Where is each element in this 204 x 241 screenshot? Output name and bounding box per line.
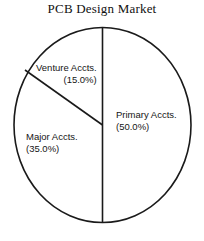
slice-label-primary-name: Primary Accts. bbox=[116, 109, 177, 121]
slice-label-venture-percent: (15.0%) bbox=[36, 74, 97, 86]
slice-label-venture-accts: Venture Accts. (15.0%) bbox=[36, 62, 97, 85]
pie-chart-figure: PCB Design Market Venture Accts. (15.0%)… bbox=[0, 0, 204, 241]
slice-label-primary-accts: Primary Accts. (50.0%) bbox=[116, 109, 177, 132]
slice-label-major-percent: (35.0%) bbox=[26, 143, 78, 155]
slice-label-major-accts: Major Accts. (35.0%) bbox=[26, 131, 78, 154]
slice-label-venture-name: Venture Accts. bbox=[36, 62, 97, 74]
slice-label-primary-percent: (50.0%) bbox=[116, 121, 177, 133]
slice-label-major-name: Major Accts. bbox=[26, 131, 78, 143]
